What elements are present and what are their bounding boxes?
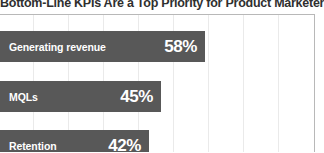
bar-category-label: MQLs [9, 91, 38, 103]
bar-row: Generating revenue58% [0, 31, 314, 62]
bar-1[interactable]: MQLs45% [0, 81, 161, 112]
bar-row: Retention42% [0, 130, 314, 152]
bar-value-label: 58% [164, 37, 197, 57]
bar-value-label: 45% [120, 87, 153, 107]
bar-2[interactable]: Retention42% [0, 130, 149, 152]
bar-chart-figure: Bottom-Line KPIs Are a Top Priority for … [0, 0, 324, 152]
chart-title: Bottom-Line KPIs Are a Top Priority for … [0, 0, 324, 12]
plot-area: Generating revenue58%MQLs45%Retention42% [0, 14, 315, 152]
bar-0[interactable]: Generating revenue58% [0, 31, 205, 62]
bar-row: MQLs45% [0, 81, 314, 112]
bar-category-label: Generating revenue [9, 41, 106, 53]
bars-layer: Generating revenue58%MQLs45%Retention42% [0, 15, 314, 152]
bar-value-label: 42% [108, 136, 141, 153]
bar-category-label: Retention [9, 140, 57, 152]
